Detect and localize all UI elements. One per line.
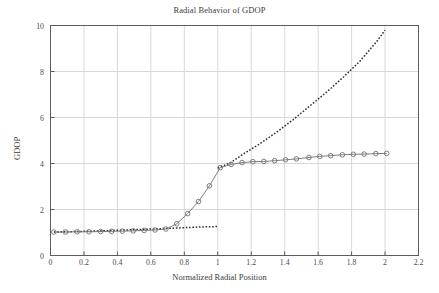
x-tick-label: 1.8 xyxy=(347,258,357,267)
axis-ticks xyxy=(51,26,419,256)
x-tick-label: 0.4 xyxy=(113,258,123,267)
x-tick-label: 0.2 xyxy=(79,258,89,267)
y-tick-label: 0 xyxy=(28,251,44,260)
data-series-group xyxy=(52,30,389,234)
x-tick-label: 1.6 xyxy=(313,258,323,267)
chart-plot-area xyxy=(0,0,439,293)
x-tick-label: 1.4 xyxy=(280,258,290,267)
x-tick-label: 0 xyxy=(49,258,53,267)
chart-figure: Radial Behavior of GDOP GDOP Normalized … xyxy=(0,0,439,293)
x-tick-label: 0.6 xyxy=(146,258,156,267)
dashed-series-upper-branch xyxy=(218,30,385,168)
plot-frame xyxy=(51,26,419,256)
y-tick-label: 6 xyxy=(28,113,44,122)
x-tick-label: 2.2 xyxy=(414,258,424,267)
x-tick-label: 1.2 xyxy=(246,258,256,267)
y-tick-label: 2 xyxy=(28,205,44,214)
x-tick-label: 2 xyxy=(383,258,387,267)
grid-lines xyxy=(51,26,419,256)
x-tick-label: 1 xyxy=(216,258,220,267)
y-tick-label: 10 xyxy=(28,21,44,30)
x-tick-label: 0.8 xyxy=(179,258,189,267)
y-tick-label: 4 xyxy=(28,159,44,168)
y-tick-label: 8 xyxy=(28,67,44,76)
